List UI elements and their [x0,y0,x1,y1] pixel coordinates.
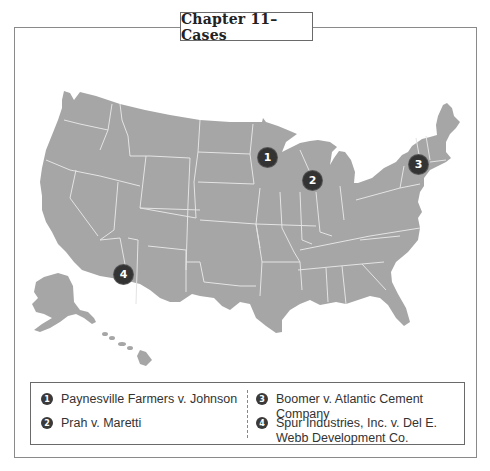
map-marker-1: 1 [258,148,277,167]
number-badge-icon: 3 [256,393,268,405]
contiguous-us [40,91,460,333]
legend-divider [247,390,248,438]
map-marker-3: 3 [409,155,428,174]
hawaii-island-4 [127,346,133,350]
legend-label: Spur Industries, Inc. v. Del E. Webb Dev… [276,416,446,446]
hawaii-island-2 [109,336,115,340]
number-badge-icon: 4 [256,417,268,429]
hawaii-island-3 [118,342,126,346]
map-marker-2: 2 [303,171,322,190]
page-title: Chapter 11–Cases [181,11,312,43]
hawaii-big-island [137,350,152,366]
number-badge-icon: 2 [41,417,53,429]
map-marker-4: 4 [114,265,133,284]
legend-item-2: 2 Prah v. Maretti [41,416,141,431]
legend-item-4: 4 Spur Industries, Inc. v. Del E. Webb D… [256,416,446,446]
title-box: Chapter 11–Cases [180,12,313,41]
number-badge-icon: 1 [41,393,53,405]
legend: 1 Paynesville Farmers v. Johnson 2 Prah … [30,382,465,445]
legend-label: Prah v. Maretti [61,416,141,431]
alaska [32,273,96,332]
legend-item-1: 1 Paynesville Farmers v. Johnson [41,392,237,407]
legend-label: Paynesville Farmers v. Johnson [61,392,237,407]
hawaii-island-1 [102,332,108,336]
